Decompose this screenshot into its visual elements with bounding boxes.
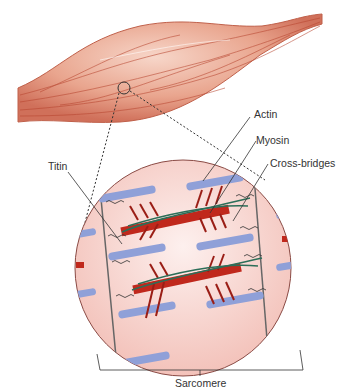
label-sarcomere: Sarcomere [175, 377, 226, 389]
label-actin: Actin [254, 108, 277, 120]
label-titin: Titin [48, 160, 67, 172]
muscle-sarcomere-diagram: Actin Myosin Cross-bridges Titin Sarcome… [0, 0, 355, 392]
diagram-graphic [0, 0, 355, 392]
muscle-belly [18, 14, 322, 122]
label-myosin: Myosin [256, 134, 289, 146]
label-cross-bridges: Cross-bridges [270, 157, 335, 169]
